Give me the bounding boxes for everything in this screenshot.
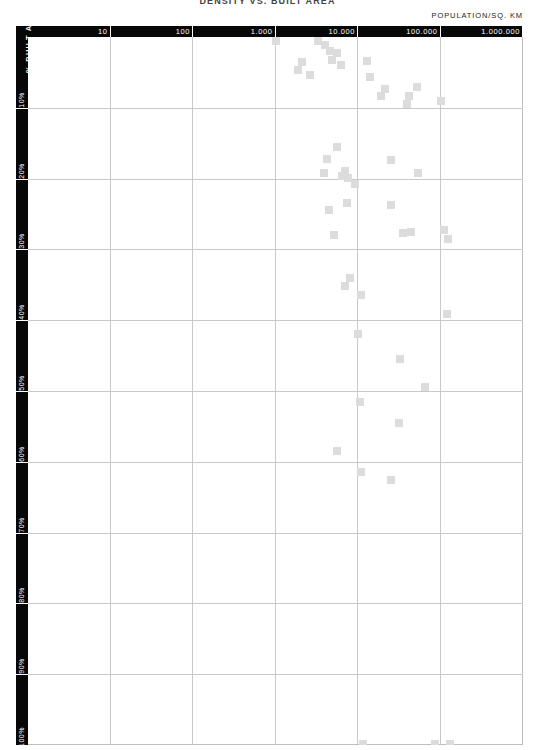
data-point bbox=[413, 83, 421, 91]
y-tick-label-70: 70% bbox=[16, 490, 28, 560]
x-axis: 101001.00010.000100.0001.000.000 bbox=[16, 26, 523, 37]
data-point bbox=[366, 73, 374, 81]
y-tick-separator bbox=[16, 249, 28, 250]
y-tick-label-40: 40% bbox=[16, 277, 28, 347]
y-tick-label-50: 50% bbox=[16, 348, 28, 418]
y-tick-label-100: 100% bbox=[16, 702, 28, 750]
data-point bbox=[363, 57, 371, 65]
gridline-horizontal bbox=[28, 249, 523, 250]
x-tick-label-10000: 10.000 bbox=[276, 26, 359, 37]
gridline-horizontal bbox=[28, 603, 523, 604]
data-point bbox=[395, 419, 403, 427]
data-point bbox=[377, 92, 385, 100]
x-tick-label-1000000: 1.000.000 bbox=[441, 26, 524, 37]
data-point bbox=[357, 468, 365, 476]
data-point bbox=[306, 71, 314, 79]
x-axis-title: POPULATION/SQ. KM bbox=[432, 11, 523, 20]
gridline-horizontal bbox=[28, 462, 523, 463]
data-point bbox=[421, 383, 429, 391]
y-tick-label-10: 10% bbox=[16, 65, 28, 135]
gridline-horizontal bbox=[28, 391, 523, 392]
data-point bbox=[330, 231, 338, 239]
data-point bbox=[341, 282, 349, 290]
data-point bbox=[443, 310, 451, 318]
y-tick-label-30: 30% bbox=[16, 206, 28, 276]
data-point bbox=[396, 355, 404, 363]
data-point bbox=[431, 740, 439, 745]
data-point bbox=[356, 398, 364, 406]
y-tick-separator bbox=[16, 108, 28, 109]
x-tick-label-10: 10 bbox=[28, 26, 111, 37]
data-point bbox=[354, 330, 362, 338]
data-point bbox=[343, 199, 351, 207]
x-tick-label-100: 100 bbox=[111, 26, 194, 37]
y-tick-label-60: 60% bbox=[16, 419, 28, 489]
plot-area bbox=[28, 37, 523, 745]
y-tick-separator bbox=[16, 391, 28, 392]
gridline-horizontal bbox=[28, 533, 523, 534]
data-point bbox=[446, 740, 454, 745]
gridline-horizontal bbox=[28, 179, 523, 180]
y-tick-label-20: 20% bbox=[16, 136, 28, 206]
data-point bbox=[333, 143, 341, 151]
data-point bbox=[333, 447, 341, 455]
x-tick-label-100000: 100.000 bbox=[358, 26, 441, 37]
y-tick-separator bbox=[16, 533, 28, 534]
y-tick-separator bbox=[16, 320, 28, 321]
y-tick-separator bbox=[16, 674, 28, 675]
data-point bbox=[387, 476, 395, 484]
data-point bbox=[440, 226, 448, 234]
y-axis: % BUILT AREA 10%20%30%40%50%60%70%80%90%… bbox=[16, 33, 28, 745]
page-title: DENSITY VS. BUILT AREA bbox=[0, 0, 535, 6]
data-point bbox=[444, 235, 452, 243]
data-point bbox=[320, 169, 328, 177]
data-point bbox=[272, 37, 280, 45]
y-tick-separator bbox=[16, 745, 28, 746]
data-point bbox=[414, 169, 422, 177]
y-tick-separator bbox=[16, 603, 28, 604]
data-point bbox=[328, 56, 336, 64]
data-point bbox=[351, 180, 359, 188]
data-point bbox=[294, 66, 302, 74]
data-point bbox=[323, 155, 331, 163]
data-point bbox=[357, 291, 365, 299]
gridline-horizontal bbox=[28, 108, 523, 109]
gridline-horizontal bbox=[28, 320, 523, 321]
data-point bbox=[399, 229, 407, 237]
data-point bbox=[387, 201, 395, 209]
data-point bbox=[359, 740, 367, 745]
data-point bbox=[387, 156, 395, 164]
y-tick-separator bbox=[16, 179, 28, 180]
data-point bbox=[407, 228, 415, 236]
y-tick-label-90: 90% bbox=[16, 631, 28, 701]
data-point bbox=[325, 206, 333, 214]
gridline-horizontal bbox=[28, 674, 523, 675]
data-point bbox=[437, 97, 445, 105]
y-tick-label-80: 80% bbox=[16, 560, 28, 630]
data-point bbox=[403, 100, 411, 108]
x-tick-label-1000: 1.000 bbox=[193, 26, 276, 37]
data-point bbox=[337, 61, 345, 69]
data-point bbox=[346, 274, 354, 282]
y-tick-separator bbox=[16, 462, 28, 463]
